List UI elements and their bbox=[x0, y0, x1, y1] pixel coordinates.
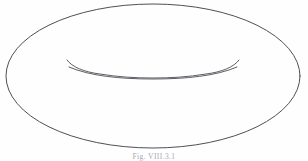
torus-illustration bbox=[0, 0, 308, 161]
torus-hole-upper-arc bbox=[67, 60, 239, 78]
figure-container: Fig. VIII.3.1 bbox=[0, 0, 308, 161]
figure-caption: Fig. VIII.3.1 bbox=[0, 152, 308, 161]
torus-outer-outline bbox=[6, 4, 300, 148]
